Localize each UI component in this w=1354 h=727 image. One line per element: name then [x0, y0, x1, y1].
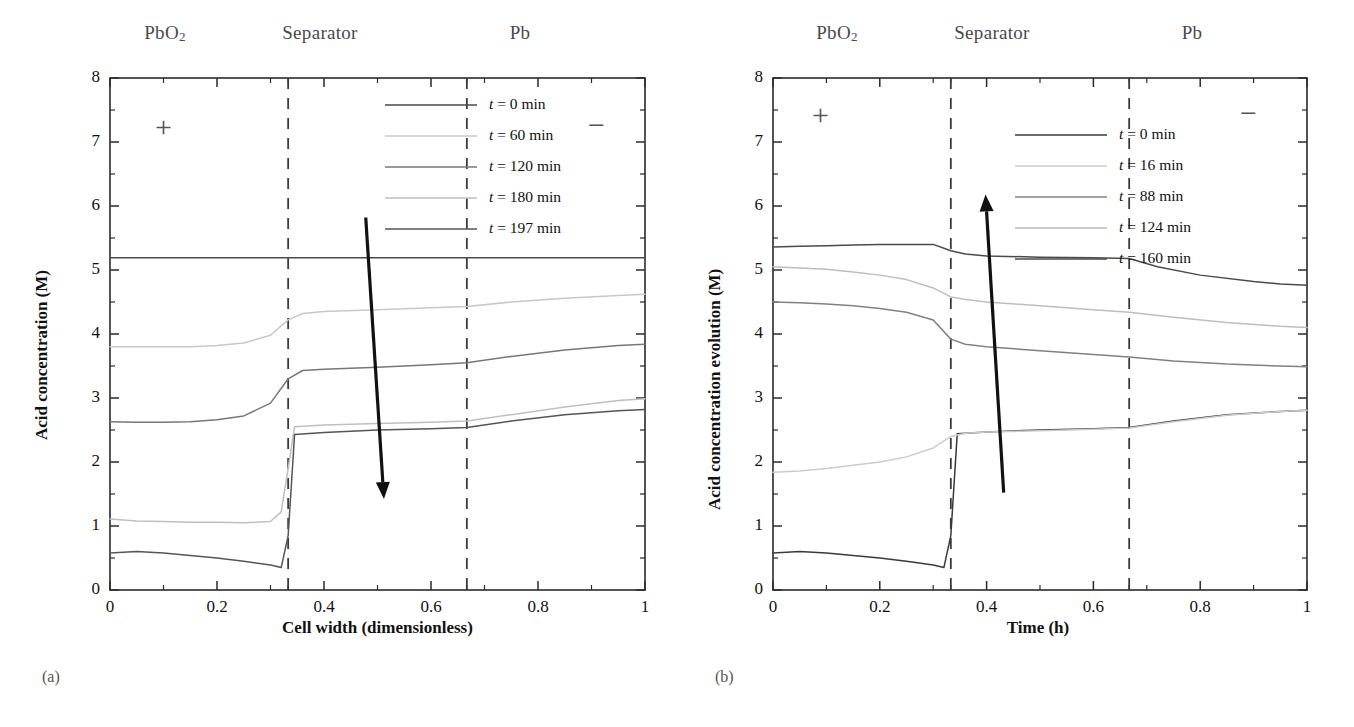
y-tick-label: 6	[733, 195, 763, 215]
x-tick-label: 0	[85, 597, 135, 617]
y-tick-label: 3	[733, 387, 763, 407]
plot-frame	[773, 78, 1307, 590]
y-tick-label: 0	[70, 579, 100, 599]
y-tick-label: 8	[733, 67, 763, 87]
x-tick-label: 1	[1282, 597, 1332, 617]
legend-label-3: t = 180 min	[489, 188, 561, 206]
legend-label-2: t = 88 min	[1119, 187, 1183, 205]
legend-label-0: t = 0 min	[489, 95, 546, 113]
legend-label-4: t = 197 min	[489, 219, 561, 237]
series-line-4	[773, 244, 1307, 285]
y-tick-label: 6	[70, 195, 100, 215]
trend-arrow-head	[376, 482, 390, 499]
y-tick-label: 2	[733, 451, 763, 471]
y-tick-label: 1	[70, 515, 100, 535]
series-line-4	[110, 410, 645, 568]
x-tick-label: 0.4	[299, 597, 349, 617]
y-tick-label: 4	[70, 323, 100, 343]
y-tick-label: 5	[733, 259, 763, 279]
legend-label-0: t = 0 min	[1119, 125, 1176, 143]
x-tick-label: 0.2	[192, 597, 242, 617]
plot-svg-a	[0, 0, 677, 727]
figure-container: PbO2 Separator Pb + − Acid concentration…	[0, 0, 1354, 727]
x-tick-label: 0.6	[1068, 597, 1118, 617]
y-tick-label: 0	[733, 579, 763, 599]
x-tick-label: 0.2	[855, 597, 905, 617]
panel-a: PbO2 Separator Pb + − Acid concentration…	[0, 0, 677, 727]
y-tick-label: 7	[733, 131, 763, 151]
legend-label-1: t = 60 min	[489, 126, 553, 144]
trend-arrow-shaft	[987, 211, 1004, 492]
legend-label-1: t = 16 min	[1119, 156, 1183, 174]
legend-label-2: t = 120 min	[489, 157, 561, 175]
y-tick-label: 4	[733, 323, 763, 343]
x-tick-label: 0	[748, 597, 798, 617]
panel-b: PbO2 Separator Pb + − Acid concentration…	[677, 0, 1354, 727]
x-tick-label: 0.8	[1175, 597, 1225, 617]
series-line-3	[773, 267, 1307, 328]
y-tick-label: 3	[70, 387, 100, 407]
y-tick-label: 2	[70, 451, 100, 471]
x-tick-label: 0.6	[406, 597, 456, 617]
plot-svg-b	[677, 0, 1354, 727]
trend-arrow-head	[980, 194, 994, 211]
x-tick-label: 0.4	[962, 597, 1012, 617]
y-tick-label: 8	[70, 67, 100, 87]
plot-frame	[110, 78, 645, 590]
y-tick-label: 5	[70, 259, 100, 279]
x-tick-label: 0.8	[513, 597, 563, 617]
legend-label-4: t = 160 min	[1119, 249, 1191, 267]
legend-label-3: t = 124 min	[1119, 218, 1191, 236]
series-line-0	[773, 410, 1307, 567]
x-tick-label: 1	[620, 597, 670, 617]
series-line-1	[773, 410, 1307, 472]
series-line-1	[110, 294, 645, 346]
y-tick-label: 1	[733, 515, 763, 535]
y-tick-label: 7	[70, 131, 100, 151]
series-line-2	[773, 302, 1307, 367]
